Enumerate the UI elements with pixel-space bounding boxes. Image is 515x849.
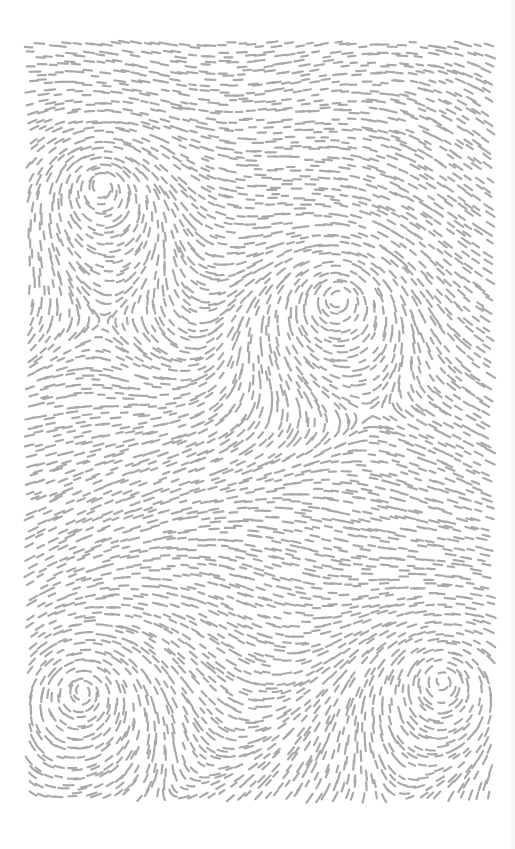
flow-field-artwork [0,0,515,849]
right-edge-strip [509,0,515,849]
artwork-page [0,0,515,849]
